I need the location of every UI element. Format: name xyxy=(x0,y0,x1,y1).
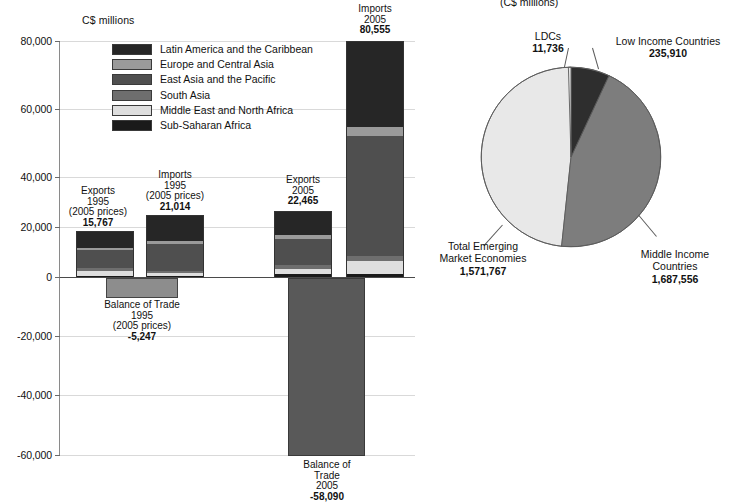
bar-balance-of-trade-2005[interactable] xyxy=(288,278,365,456)
bar-value-exports-2005: 22,465 xyxy=(288,195,319,206)
pie-label-total-emerging-line2: Market Economies xyxy=(421,252,545,264)
bar-segment-latin-america xyxy=(347,42,403,127)
bar-segment-east-asia-pacific xyxy=(147,244,203,271)
bar-label-balance-of-trade-1995: Balance of Trade 1995 (2005 prices) -5,2… xyxy=(86,300,198,342)
bar-value-imports-2005: 80,555 xyxy=(360,24,391,35)
legend-swatch-europe-central-asia xyxy=(112,59,152,70)
pie-label-total-emerging-line1: Total Emerging xyxy=(421,240,545,252)
bar-label-exports-1995: Exports 1995 (2005 prices) 15,767 xyxy=(62,186,134,228)
y-tickmark-60000 xyxy=(55,109,60,110)
pie-label-low-income-countries: Low Income Countries 235,910 xyxy=(602,35,734,60)
legend-label-sub-saharan-africa: Sub-Saharan Africa xyxy=(160,120,251,131)
y-tick-label-minus40000: -40,000 xyxy=(4,389,52,401)
bar-value-balance-2005: -58,090 xyxy=(310,491,344,502)
legend-swatch-sub-saharan-africa xyxy=(112,120,152,131)
y-tick-label-80000: 80,000 xyxy=(4,35,52,47)
pie-label-middle-income-line1: Middle Income xyxy=(620,248,730,260)
chart-legend: Latin America and the Caribbean Europe a… xyxy=(112,42,313,133)
pie-value-ldcs: 11,736 xyxy=(532,42,564,54)
bar-segment-east-asia-pacific xyxy=(77,250,133,268)
y-axis-unit-label: C$ millions xyxy=(82,14,134,26)
legend-swatch-east-asia-pacific xyxy=(112,74,152,85)
bar-imports-1995[interactable] xyxy=(146,215,204,277)
bar-exports-2005[interactable] xyxy=(274,211,332,277)
bar-value-exports-1995: 15,767 xyxy=(83,217,114,228)
legend-swatch-middle-east-north-africa xyxy=(112,105,152,116)
legend-swatch-south-asia xyxy=(112,90,152,101)
pie-chart[interactable] xyxy=(476,62,666,252)
pie-chart-title: (C$ millions) xyxy=(500,0,558,8)
bar-value-balance-1995: -5,247 xyxy=(128,331,156,342)
bar-segment-latin-america xyxy=(275,212,331,235)
y-tick-label-0: 0 xyxy=(4,271,52,283)
bar-label-exports-1995-line1: Exports xyxy=(62,186,134,197)
legend-item-middle-east-north-africa: Middle East and North Africa xyxy=(112,103,313,118)
bar-segment-east-asia-pacific xyxy=(347,136,403,256)
pie-slice-total-emerging-market-economies[interactable] xyxy=(481,67,571,246)
bar-label-imports-2005: Imports 2005 80,555 xyxy=(339,4,411,36)
pie-value-low-income: 235,910 xyxy=(649,47,687,59)
legend-swatch-latin-america xyxy=(112,44,152,55)
legend-item-sub-saharan-africa: Sub-Saharan Africa xyxy=(112,118,313,133)
y-tick-label-60000: 60,000 xyxy=(4,103,52,115)
bar-label-exports-2005: Exports 2005 22,465 xyxy=(267,175,339,207)
legend-item-south-asia: South Asia xyxy=(112,88,313,103)
bar-segment-middle-east-north-africa xyxy=(347,261,403,274)
pie-label-ldcs-text: LDCs xyxy=(512,30,584,42)
y-tickmark-minus20000 xyxy=(55,336,60,337)
pie-label-middle-income-countries: Middle Income Countries 1,687,556 xyxy=(620,248,730,285)
legend-label-latin-america: Latin America and the Caribbean xyxy=(160,44,313,55)
y-tickmark-minus40000 xyxy=(55,395,60,396)
y-axis-line xyxy=(59,41,60,455)
bar-imports-2005[interactable] xyxy=(346,41,404,277)
bar-label-balance-of-trade-2005: Balance of Trade 2005 -58,090 xyxy=(288,460,366,502)
pie-label-total-emerging-market-economies: Total Emerging Market Economies 1,571,76… xyxy=(421,240,545,277)
legend-label-middle-east-north-africa: Middle East and North Africa xyxy=(160,105,293,116)
pie-label-middle-income-line2: Countries xyxy=(620,260,730,272)
bar-segment-latin-america xyxy=(147,216,203,241)
y-tick-label-40000: 40,000 xyxy=(4,171,52,183)
zero-baseline xyxy=(60,277,415,278)
y-tickmark-40000 xyxy=(55,177,60,178)
y-tickmark-80000 xyxy=(55,41,60,42)
bar-value-imports-1995: 21,014 xyxy=(160,201,191,212)
bar-label-imports-1995-line1: Imports xyxy=(139,170,211,181)
bar-balance-of-trade-1995[interactable] xyxy=(106,278,178,298)
bar-label-exports-2005-line1: Exports xyxy=(267,175,339,186)
bar-label-imports-1995: Imports 1995 (2005 prices) 21,014 xyxy=(139,170,211,212)
bar-segment-latin-america xyxy=(77,232,133,248)
y-tickmark-minus60000 xyxy=(55,455,60,456)
legend-label-europe-central-asia: Europe and Central Asia xyxy=(160,59,274,70)
bar-segment-europe-central-asia xyxy=(347,127,403,136)
legend-item-europe-central-asia: Europe and Central Asia xyxy=(112,57,313,72)
y-tickmark-20000 xyxy=(55,227,60,228)
legend-item-latin-america: Latin America and the Caribbean xyxy=(112,42,313,57)
legend-label-south-asia: South Asia xyxy=(160,90,210,101)
bar-exports-1995[interactable] xyxy=(76,231,134,277)
pie-value-total-emerging: 1,571,767 xyxy=(460,265,507,277)
y-tick-label-minus60000: -60,000 xyxy=(4,449,52,461)
bar-label-balance-1995-line1: Balance of Trade xyxy=(86,300,198,311)
legend-label-east-asia-pacific: East Asia and the Pacific xyxy=(160,74,276,85)
legend-item-east-asia-pacific: East Asia and the Pacific xyxy=(112,72,313,87)
y-tick-label-minus20000: -20,000 xyxy=(4,330,52,342)
bar-label-imports-2005-line1: Imports xyxy=(339,4,411,15)
pie-label-low-income-text: Low Income Countries xyxy=(602,35,734,47)
bar-label-balance-2005-line1: Balance of xyxy=(288,460,366,471)
y-tick-label-20000: 20,000 xyxy=(4,221,52,233)
bar-segment-east-asia-pacific xyxy=(275,239,331,265)
pie-value-middle-income: 1,687,556 xyxy=(652,273,699,285)
pie-label-ldcs: LDCs 11,736 xyxy=(512,30,584,55)
